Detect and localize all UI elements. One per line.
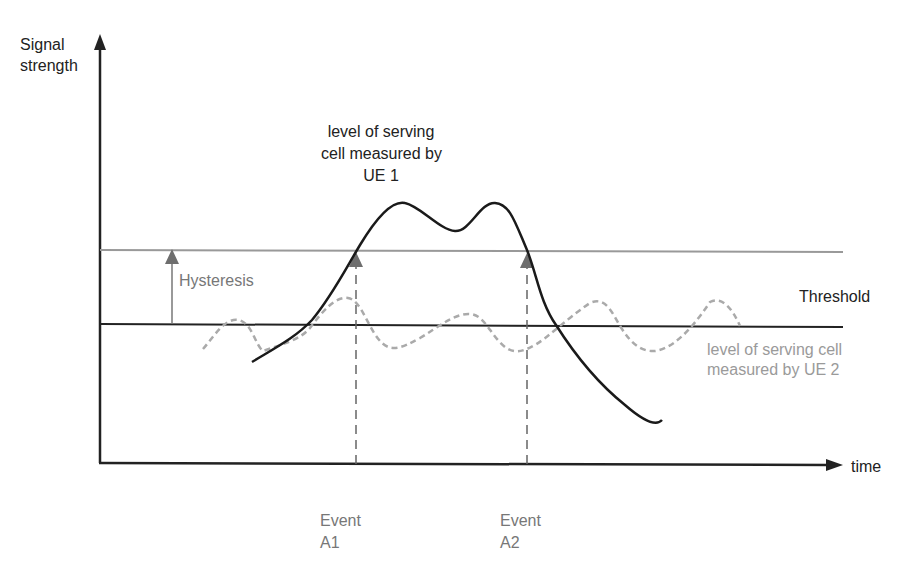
threshold-line	[100, 324, 843, 327]
hysteresis-arrow-icon	[165, 249, 179, 264]
hysteresis-arrow	[165, 249, 179, 324]
ue2-label-line1: level of serving cell	[707, 340, 842, 360]
ue1-signal-curve	[252, 203, 662, 423]
event-a1-label: Event A1	[320, 510, 361, 554]
x-axis-label: time	[851, 457, 881, 477]
event-a2-label: Event A2	[463, 510, 541, 554]
hysteresis-label: Hysteresis	[179, 271, 254, 291]
ue2-curve-label: level of serving cell measured by UE 2	[707, 340, 842, 380]
y-axis-label-line2: strength	[20, 55, 78, 76]
event-a1-label-line2: A1	[320, 532, 361, 554]
event-a1-marker	[349, 252, 363, 464]
x-axis	[99, 459, 843, 471]
y-axis-arrow-icon	[94, 34, 106, 50]
ue1-label-line2: cell measured by	[321, 143, 441, 165]
y-axis-label-line1: Signal	[20, 34, 78, 55]
event-a2-label-line2: A2	[500, 532, 541, 554]
event-a1-label-line1: Event	[320, 510, 361, 532]
x-axis-arrow-icon	[826, 459, 843, 471]
event-a2-marker	[520, 253, 534, 464]
y-axis-label: Signal strength	[20, 34, 78, 76]
y-axis	[94, 34, 106, 463]
ue1-curve-label: level of serving cell measured by UE 1	[321, 121, 441, 187]
event-a2-label-line1: Event	[500, 510, 541, 532]
ue1-label-line1: level of serving	[321, 121, 441, 143]
ue2-label-line2: measured by UE 2	[707, 360, 842, 380]
ue1-label-line3: UE 1	[321, 165, 441, 187]
threshold-label: Threshold	[799, 287, 870, 307]
signal-strength-diagram	[0, 0, 914, 584]
hysteresis-level-line	[100, 250, 843, 252]
